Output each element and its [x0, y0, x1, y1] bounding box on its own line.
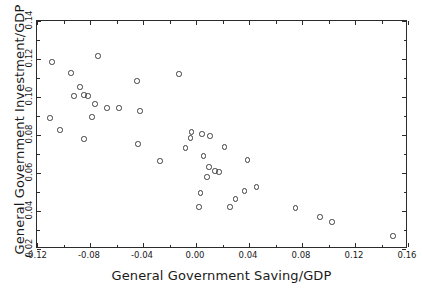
x-tick-label: -0.08 — [78, 250, 100, 260]
data-point — [188, 135, 193, 140]
y-tick-major-right — [402, 97, 406, 98]
data-point — [71, 93, 76, 98]
data-points-layer — [37, 21, 406, 247]
data-point — [227, 204, 232, 209]
data-point — [198, 190, 203, 195]
data-point — [206, 164, 211, 169]
x-tick-minor-top — [276, 21, 277, 24]
x-tick-minor-top — [170, 21, 171, 24]
x-tick-major-top — [302, 21, 303, 25]
x-tick-label: 0.12 — [345, 250, 364, 260]
data-point — [317, 214, 322, 219]
x-tick-major — [196, 243, 197, 247]
y-tick-minor-right — [404, 154, 407, 155]
plot-area — [36, 20, 407, 248]
x-tick-minor-top — [64, 21, 65, 24]
data-point — [293, 205, 298, 210]
data-point — [89, 114, 94, 119]
data-point — [157, 158, 162, 163]
y-tick-minor-right — [404, 230, 407, 231]
x-tick-major-top — [196, 21, 197, 25]
x-tick-major-top — [355, 21, 356, 25]
y-tick-minor-right — [404, 78, 407, 79]
x-tick-minor-top — [223, 21, 224, 24]
x-tick-minor — [329, 245, 330, 248]
y-axis-title: General Government Investment/GDP — [12, 5, 27, 255]
x-tick-label: 0.16 — [398, 250, 417, 260]
data-point — [216, 169, 221, 174]
data-point — [233, 196, 238, 201]
x-tick-major — [249, 243, 250, 247]
y-tick-minor — [37, 192, 40, 193]
x-tick-major — [90, 243, 91, 247]
x-axis-title: General Government Saving/GDP — [36, 268, 407, 283]
data-point — [245, 157, 250, 162]
data-point — [134, 78, 139, 83]
y-tick-major-right — [402, 21, 406, 22]
x-tick-major — [408, 243, 409, 247]
x-tick-minor — [223, 245, 224, 248]
data-point — [104, 105, 109, 110]
data-point — [176, 71, 181, 76]
data-point — [189, 129, 194, 134]
x-tick-minor-top — [329, 21, 330, 24]
data-point — [137, 108, 142, 113]
x-tick-minor-top — [382, 21, 383, 24]
data-point — [242, 188, 247, 193]
x-tick-label: -0.04 — [131, 250, 153, 260]
y-tick-minor — [37, 40, 40, 41]
data-point — [207, 133, 212, 138]
y-tick-minor — [37, 78, 40, 79]
x-tick-minor — [276, 245, 277, 248]
data-point — [47, 115, 52, 120]
data-point — [85, 93, 90, 98]
x-tick-minor — [117, 245, 118, 248]
y-tick-major-right — [402, 59, 406, 60]
x-tick-major-top — [143, 21, 144, 25]
y-tick-minor — [37, 154, 40, 155]
data-point — [57, 127, 62, 132]
x-tick-major — [355, 243, 356, 247]
y-tick-minor — [37, 116, 40, 117]
x-tick-label: 0.08 — [292, 250, 311, 260]
data-point — [116, 105, 121, 110]
x-tick-major-top — [249, 21, 250, 25]
data-point — [77, 84, 82, 89]
y-tick-minor-right — [404, 192, 407, 193]
data-point — [199, 131, 204, 136]
y-tick-minor-right — [404, 40, 407, 41]
y-tick-major-right — [402, 173, 406, 174]
data-point — [49, 59, 54, 64]
x-tick-minor-top — [117, 21, 118, 24]
x-tick-minor — [382, 245, 383, 248]
data-point — [196, 204, 201, 209]
data-point — [254, 184, 259, 189]
y-tick-minor — [37, 230, 40, 231]
x-tick-minor — [170, 245, 171, 248]
scatter-chart-figure: -0.12-0.08-0.040.000.040.080.120.16 0.02… — [0, 0, 422, 296]
data-point — [183, 145, 188, 150]
y-tick-major-right — [402, 135, 406, 136]
x-tick-label: 0.04 — [239, 250, 258, 260]
data-point — [92, 101, 97, 106]
data-point — [68, 70, 73, 75]
data-point — [201, 153, 206, 158]
x-tick-label: 0.00 — [186, 250, 205, 260]
x-tick-minor — [64, 245, 65, 248]
data-point — [222, 144, 227, 149]
data-point — [135, 141, 140, 146]
x-tick-major — [302, 243, 303, 247]
data-point — [95, 53, 100, 58]
data-point — [329, 219, 334, 224]
data-point — [81, 136, 86, 141]
y-tick-major-right — [402, 211, 406, 212]
data-point — [390, 233, 395, 238]
data-point — [204, 174, 209, 179]
x-tick-major-top — [90, 21, 91, 25]
x-tick-major-top — [408, 21, 409, 25]
x-tick-major — [143, 243, 144, 247]
y-tick-minor-right — [404, 116, 407, 117]
